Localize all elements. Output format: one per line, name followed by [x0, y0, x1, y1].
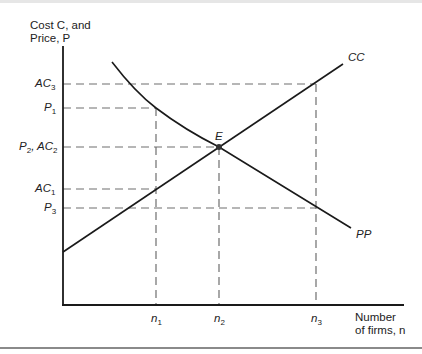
x-tick-n1: n1: [151, 312, 162, 329]
pp-label: PP: [356, 228, 371, 241]
cc-label: CC: [348, 51, 365, 64]
y-tick-p2-ac2: P2, AC2: [19, 140, 58, 157]
equilibrium-label: E: [215, 130, 223, 143]
x-tick-n2: n2: [214, 312, 225, 329]
equilibrium-point: [216, 144, 222, 150]
y-axis-label: Cost C, and Price, P: [30, 19, 91, 45]
y-tick-ac1: AC1: [35, 182, 55, 199]
cc-curve: [63, 64, 343, 252]
y-tick-p3: P3: [44, 201, 56, 218]
bottom-rule: [0, 347, 422, 349]
y-tick-ac3: AC3: [35, 77, 55, 94]
x-tick-n3: n3: [311, 312, 322, 329]
x-axis-label: Number of firms, n: [355, 311, 405, 337]
y-tick-p1: P1: [44, 101, 56, 118]
guide-lines: [63, 84, 316, 305]
pp-curve: [112, 62, 351, 228]
